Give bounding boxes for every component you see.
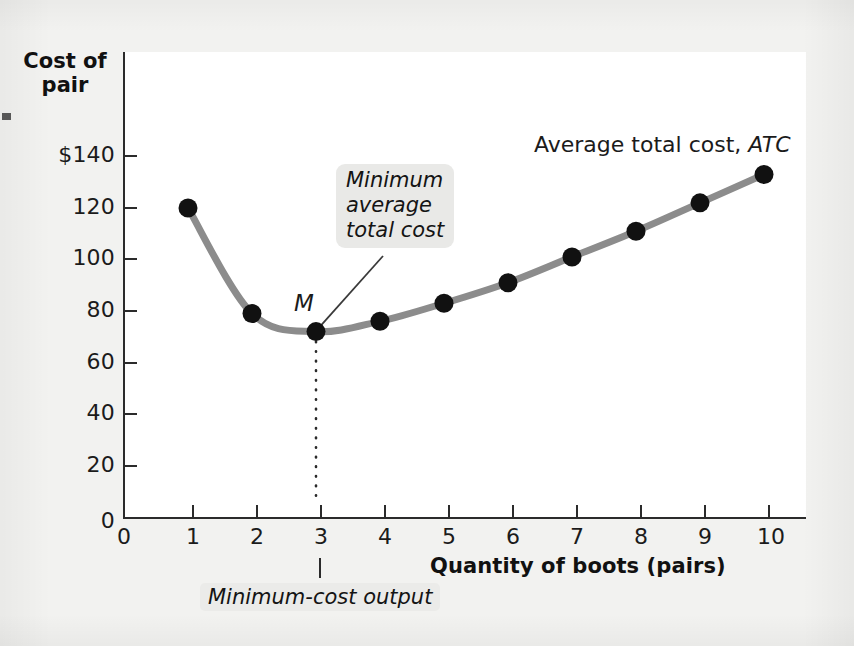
data-point-marker-1: [179, 199, 198, 218]
data-point-markers: [179, 165, 774, 341]
data-point-marker-4: [371, 312, 390, 331]
data-point-marker-7: [563, 247, 582, 266]
atc-curve-group: [188, 175, 764, 332]
data-point-marker-10: [755, 165, 774, 184]
chart-figure: $140 120 100 80 60 40 20 0 0 1 2 3 4 5 6…: [0, 0, 854, 646]
minimum-point-label: M: [294, 290, 314, 316]
series-label-text: Average total cost,: [534, 132, 748, 157]
data-point-marker-3: [307, 322, 326, 341]
series-label: Average total cost, ATC: [534, 132, 791, 157]
atc-curve-svg: [0, 0, 854, 646]
minimum-cost-callout: Minimum average total cost: [336, 164, 454, 248]
data-point-marker-2: [243, 304, 262, 323]
minimum-cost-output-tick: [319, 558, 321, 578]
data-point-marker-5: [435, 294, 454, 313]
data-point-marker-9: [691, 193, 710, 212]
data-point-marker-6: [499, 273, 518, 292]
atc-curve-path: [188, 175, 764, 332]
data-point-marker-8: [627, 222, 646, 241]
minimum-cost-output-caption: Minimum-cost output: [200, 583, 440, 611]
series-label-abbrev: ATC: [748, 132, 790, 157]
